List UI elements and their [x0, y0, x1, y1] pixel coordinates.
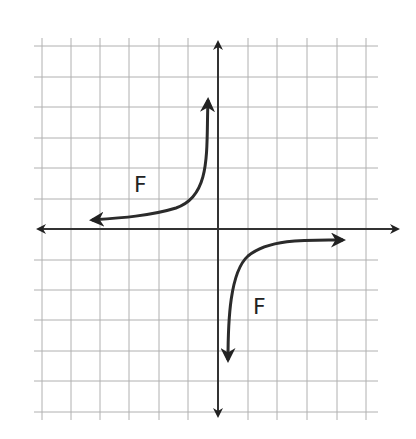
upper-left-branch-curve — [92, 100, 208, 220]
function-label-lower: F — [253, 296, 266, 318]
axes — [38, 42, 398, 416]
lower-right-branch-curve — [228, 240, 343, 360]
coordinate-graph — [0, 0, 416, 439]
function-label-upper: F — [134, 174, 147, 196]
